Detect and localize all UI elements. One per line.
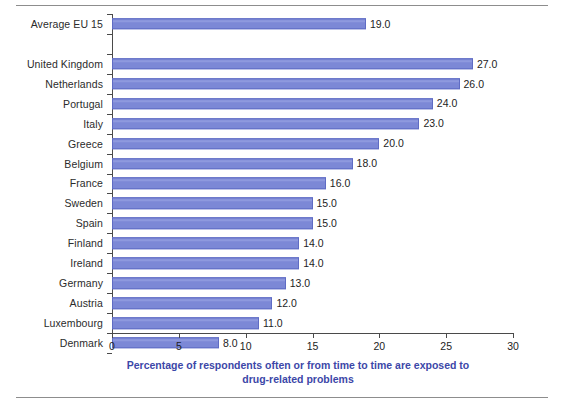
x-axis-tick-label: 20 — [373, 340, 385, 352]
bar-highlight — [113, 140, 378, 142]
chart-bar[interactable]: 12.0 — [112, 297, 272, 309]
chart-figure: Average EU 1519.0United Kingdom27.0Nethe… — [0, 0, 564, 405]
y-axis-tick — [107, 74, 112, 75]
y-axis-category-label: Austria — [70, 297, 103, 309]
y-axis-category-label: United Kingdom — [27, 58, 103, 70]
bar-highlight — [113, 339, 218, 341]
bar-highlight — [113, 259, 298, 261]
chart-row: Portugal24.0 — [112, 94, 513, 114]
chart-bar[interactable]: 14.0 — [112, 257, 299, 269]
y-axis-tick — [107, 34, 112, 35]
chart-bar[interactable]: 15.0 — [112, 198, 313, 210]
bar-value-label: 11.0 — [263, 317, 283, 329]
x-axis-tick-label: 10 — [240, 340, 252, 352]
top-divider-rule — [16, 5, 548, 6]
bar-value-label: 16.0 — [330, 177, 350, 189]
chart-bar[interactable]: 16.0 — [112, 178, 326, 190]
y-axis-category-label: Average EU 15 — [31, 18, 103, 30]
y-axis-tick — [107, 253, 112, 254]
chart-row: Greece20.0 — [112, 134, 513, 154]
x-axis-tick — [246, 333, 247, 338]
bar-value-label: 19.0 — [370, 18, 390, 30]
x-axis-title-line1: Percentage of respondents often or from … — [127, 359, 469, 371]
y-axis-category-label: France — [70, 177, 103, 189]
y-axis-tick — [107, 174, 112, 175]
y-axis-tick — [107, 114, 112, 115]
y-axis-tick — [107, 14, 112, 15]
chart-row: Germany13.0 — [112, 273, 513, 293]
chart-row: United Kingdom27.0 — [112, 54, 513, 74]
y-axis-category-label: Italy — [83, 118, 103, 130]
y-axis-category-label: Finland — [68, 237, 103, 249]
bar-value-label: 15.0 — [317, 217, 337, 229]
bottom-divider-rule — [16, 397, 548, 398]
y-axis-tick — [107, 293, 112, 294]
x-axis-tick-label: 15 — [307, 340, 319, 352]
chart-row: Sweden15.0 — [112, 193, 513, 213]
bar-highlight — [113, 80, 459, 82]
chart-bar[interactable]: 24.0 — [112, 98, 433, 110]
y-axis-tick — [107, 273, 112, 274]
x-axis-tick — [379, 333, 380, 338]
bar-highlight — [113, 200, 312, 202]
chart-bar[interactable]: 23.0 — [112, 118, 419, 130]
chart-bar[interactable]: 19.0 — [112, 18, 366, 30]
y-axis-tick — [107, 233, 112, 234]
y-axis-tick — [107, 94, 112, 95]
bar-highlight — [113, 299, 271, 301]
chart-bar[interactable]: 8.0 — [112, 337, 219, 349]
chart-row: France16.0 — [112, 174, 513, 194]
y-axis-category-label: Ireland — [70, 257, 103, 269]
x-axis-tick-label: 0 — [109, 340, 115, 352]
bar-value-label: 27.0 — [477, 58, 497, 70]
bar-value-label: 14.0 — [303, 257, 323, 269]
chart-row: Ireland14.0 — [112, 253, 513, 273]
chart-bar[interactable]: 18.0 — [112, 158, 353, 170]
bar-highlight — [113, 319, 258, 321]
x-axis-tick — [313, 333, 314, 338]
bar-highlight — [113, 240, 298, 242]
chart-row: Spain15.0 — [112, 213, 513, 233]
bar-value-label: 24.0 — [437, 98, 457, 110]
chart-bar[interactable]: 14.0 — [112, 238, 299, 250]
bar-highlight — [113, 20, 365, 22]
bar-highlight — [113, 180, 325, 182]
bar-value-label: 14.0 — [303, 237, 323, 249]
bar-value-label: 13.0 — [290, 277, 310, 289]
y-axis-tick — [107, 134, 112, 135]
chart-bar[interactable]: 13.0 — [112, 277, 286, 289]
chart-bar[interactable]: 11.0 — [112, 317, 259, 329]
bar-value-label: 15.0 — [317, 197, 337, 209]
bar-value-label: 23.0 — [423, 118, 443, 130]
x-axis-tick-label: 25 — [440, 340, 452, 352]
chart-row: Austria12.0 — [112, 293, 513, 313]
y-axis-category-label: Germany — [59, 277, 103, 289]
x-axis-tick-label: 30 — [507, 340, 519, 352]
y-axis-category-label: Spain — [76, 217, 103, 229]
y-axis-tick — [107, 213, 112, 214]
bar-value-label: 18.0 — [357, 158, 377, 170]
y-axis-tick — [107, 313, 112, 314]
bar-highlight — [113, 279, 285, 281]
chart-row: Netherlands26.0 — [112, 74, 513, 94]
bar-value-label: 8.0 — [223, 337, 238, 349]
chart-bar[interactable]: 27.0 — [112, 58, 473, 70]
bar-highlight — [113, 120, 418, 122]
chart-bar[interactable]: 26.0 — [112, 78, 460, 90]
y-axis-category-label: Greece — [68, 138, 103, 150]
chart-bar[interactable]: 15.0 — [112, 218, 313, 230]
y-axis-tick — [107, 193, 112, 194]
bar-highlight — [113, 100, 432, 102]
bar-value-label: 12.0 — [276, 297, 296, 309]
bar-value-label: 26.0 — [464, 78, 484, 90]
chart-bar[interactable]: 20.0 — [112, 138, 379, 150]
bar-value-label: 20.0 — [383, 138, 403, 150]
bar-highlight — [113, 60, 472, 62]
x-axis-tick — [179, 333, 180, 338]
y-axis-category-label: Portugal — [63, 98, 103, 110]
y-axis-category-label: Netherlands — [45, 78, 103, 90]
x-axis-title: Percentage of respondents often or from … — [62, 358, 534, 386]
x-axis-tick — [446, 333, 447, 338]
x-axis-tick-label: 5 — [176, 340, 182, 352]
y-axis-tick — [107, 54, 112, 55]
